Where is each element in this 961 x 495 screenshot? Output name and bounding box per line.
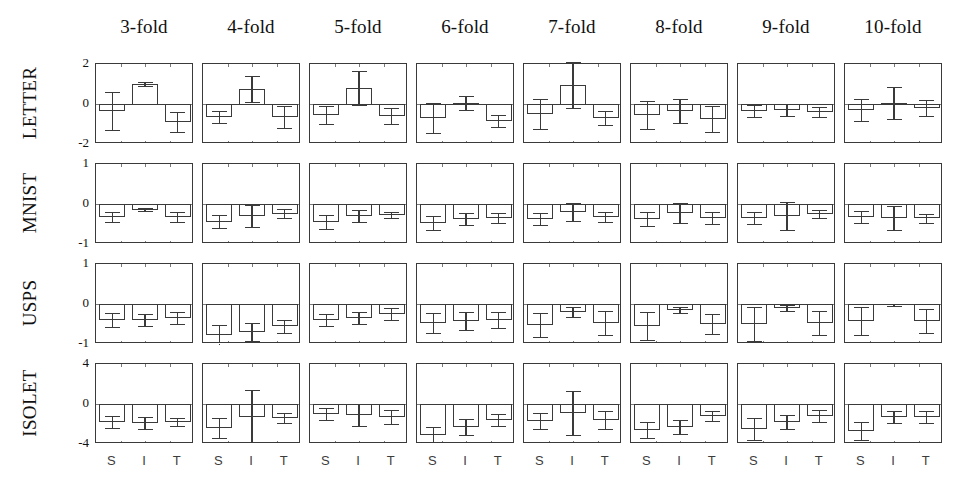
error-bar-stem-usps-8-fold-T — [712, 314, 713, 334]
error-bar-cap-upper-T — [598, 111, 613, 112]
error-bar-cap-lower-S — [426, 230, 441, 231]
tick-mark-top — [359, 364, 360, 367]
tick-mark-top — [466, 264, 467, 267]
error-bar-stem-isolet-3-fold-T — [177, 418, 178, 426]
tick-mark-top — [170, 364, 171, 367]
error-bar-cap-upper-T — [812, 210, 827, 211]
tick-mark-right — [298, 104, 299, 105]
tick-mark-bottom — [812, 241, 813, 242]
error-bar-cap-upper-S — [747, 105, 762, 106]
error-bar-stem-isolet-9-fold-S — [754, 418, 755, 440]
tick-mark-bottom — [442, 341, 443, 342]
error-bar-cap-upper-I — [245, 205, 260, 206]
error-bar-cap-lower-I — [138, 86, 153, 87]
error-bar-cap-upper-S — [640, 212, 655, 213]
tick-mark-bottom — [705, 441, 706, 442]
error-bar-cap-upper-T — [170, 212, 185, 213]
column-header-7-fold: 7-fold — [513, 16, 631, 38]
tick-mark-right — [619, 104, 620, 105]
error-bar-cap-upper-S — [854, 99, 869, 100]
error-bar-cap-upper-I — [459, 419, 474, 420]
panel-usps-7-fold — [523, 263, 621, 343]
error-bar-stem-usps-5-fold-S — [326, 314, 327, 326]
error-bar-stem-letter-9-fold-S — [754, 105, 755, 117]
tick-mark-top — [145, 364, 146, 367]
error-bar-cap-lower-I — [673, 434, 688, 435]
error-bar-cap-upper-S — [747, 212, 762, 213]
error-bar-cap-lower-S — [105, 222, 120, 223]
tick-mark-bottom — [680, 341, 681, 342]
panel-mnist-6-fold — [416, 163, 514, 243]
panel-plot-area — [631, 364, 727, 442]
error-bar-cap-lower-S — [105, 327, 120, 328]
y-tick-label-mnist-2: -1 — [59, 235, 89, 251]
error-bar-cap-lower-T — [812, 218, 827, 219]
tick-mark-right — [940, 304, 941, 305]
panel-plot-area — [96, 264, 192, 342]
x-tick-label-5-fold-S: S — [310, 453, 340, 468]
tick-mark-right — [833, 304, 834, 305]
tick-mark-bottom — [228, 341, 229, 342]
error-bar-cap-upper-I — [459, 96, 474, 97]
panel-letter-9-fold — [737, 63, 835, 143]
panel-plot-area — [96, 364, 192, 442]
error-bar-cap-upper-T — [170, 418, 185, 419]
tick-mark-bottom — [763, 241, 764, 242]
tick-mark-top — [680, 164, 681, 167]
error-bar-stem-isolet-5-fold-S — [326, 408, 327, 420]
tick-mark-top — [656, 64, 657, 67]
tick-mark-right — [298, 204, 299, 205]
tick-mark-bottom — [491, 341, 492, 342]
error-bar-stem-letter-5-fold-I — [358, 71, 359, 105]
x-tick-label-10-fold-T: T — [911, 453, 941, 468]
error-bar-stem-usps-3-fold-S — [112, 313, 113, 327]
x-tick-label-5-fold-I: I — [343, 453, 373, 468]
tick-mark-top — [680, 364, 681, 367]
error-bar-cap-lower-S — [212, 123, 227, 124]
tick-mark-right — [940, 204, 941, 205]
error-bar-cap-lower-S — [854, 335, 869, 336]
y-tick-label-isolet-0: 4 — [59, 355, 89, 371]
x-tick-label-6-fold-I: I — [450, 453, 480, 468]
y-tick-label-letter-2: -2 — [59, 135, 89, 151]
error-bar-cap-lower-I — [887, 230, 902, 231]
tick-mark-bottom — [145, 341, 146, 342]
error-bar-cap-lower-T — [170, 426, 185, 427]
error-bar-cap-upper-S — [854, 422, 869, 423]
y-tick-label-mnist-1: 0 — [59, 195, 89, 211]
tick-mark-bottom — [228, 441, 229, 442]
tick-mark-bottom — [680, 241, 681, 242]
tick-mark-bottom — [598, 441, 599, 442]
tick-mark-bottom — [170, 441, 171, 442]
tick-mark-top — [252, 264, 253, 267]
tick-mark-top — [277, 164, 278, 167]
tick-mark-bottom — [598, 341, 599, 342]
column-header-6-fold: 6-fold — [406, 16, 524, 38]
panel-plot-area — [631, 264, 727, 342]
panel-plot-area — [417, 364, 513, 442]
tick-mark-bottom — [466, 241, 467, 242]
tick-mark-bottom — [335, 441, 336, 442]
tick-mark-top — [359, 164, 360, 167]
tick-mark-top — [763, 264, 764, 267]
panel-plot-area — [417, 64, 513, 142]
error-bar-stem-usps-3-fold-I — [144, 314, 145, 326]
panel-plot-area — [310, 64, 406, 142]
tick-mark-bottom — [870, 441, 871, 442]
x-tick-label-6-fold-S: S — [417, 453, 447, 468]
tick-mark-bottom — [919, 141, 920, 142]
column-header-3-fold: 3-fold — [85, 16, 203, 38]
tick-mark-top — [656, 364, 657, 367]
tick-mark-right — [405, 204, 406, 205]
error-bar-stem-isolet-10-fold-T — [926, 411, 927, 423]
x-tick-label-3-fold-T: T — [162, 453, 192, 468]
error-bar-cap-upper-T — [919, 309, 934, 310]
tick-mark-top — [705, 364, 706, 367]
tick-mark-bottom — [763, 341, 764, 342]
error-bar-cap-upper-T — [384, 212, 399, 213]
error-bar-cap-upper-I — [245, 390, 260, 391]
error-bar-stem-usps-4-fold-I — [251, 323, 252, 341]
tick-mark-top — [145, 164, 146, 167]
error-bar-cap-lower-S — [533, 429, 548, 430]
error-bar-stem-letter-9-fold-I — [786, 104, 787, 116]
